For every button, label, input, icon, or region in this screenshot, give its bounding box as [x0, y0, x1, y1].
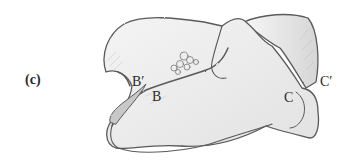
label-c-prime: C′ [320, 74, 332, 90]
label-b: B [152, 89, 161, 105]
label-c: C [284, 90, 293, 106]
panel-label: (c) [25, 72, 41, 88]
sketch-figure [0, 0, 356, 163]
label-b-prime: B′ [132, 74, 144, 90]
